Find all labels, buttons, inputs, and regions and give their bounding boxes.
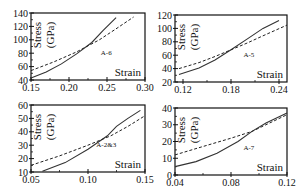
x-tick-label: 0.12	[174, 84, 192, 95]
x-tick-label: 0.30	[136, 82, 154, 93]
y-axis-label: Stress	[31, 22, 43, 48]
y-axis-label: Stress	[31, 114, 43, 140]
y-tick-label: 100	[157, 23, 172, 34]
x-tick-label: 0.08	[222, 177, 240, 188]
stress-strain-figure: 4060801001201400.150.200.250.30Stress(GP…	[0, 0, 301, 193]
y-tick-label: 20	[162, 77, 172, 88]
y-axis-unit: (GPa)	[44, 22, 57, 49]
chart-A-6: 4060801001201400.150.200.250.30Stress(GP…	[13, 8, 154, 94]
x-tick-label: 0.15	[22, 82, 40, 93]
x-tick-label: 0.12	[278, 177, 296, 188]
sample-annotation: A-2&3	[96, 141, 116, 149]
y-tick-label: 20	[18, 153, 28, 164]
chart-A-7: 0102030400.040.080.12Stress(GPa)StrainA-…	[162, 103, 296, 189]
y-tick-label: 80	[18, 48, 28, 59]
x-tick-label: 0.18	[222, 84, 240, 95]
y-tick-label: 40	[18, 126, 28, 137]
x-tick-label: 0.04	[166, 177, 184, 188]
x-axis-label: Strain	[115, 158, 142, 170]
x-axis-label: Strain	[115, 66, 142, 78]
y-tick-label: 30	[162, 119, 172, 130]
x-tick-label: 0.20	[60, 82, 78, 93]
x-tick-label: 0.10	[79, 174, 97, 185]
x-tick-label: 0.05	[22, 174, 40, 185]
y-tick-label: 30	[18, 140, 28, 151]
x-tick-label: 0.24	[270, 84, 288, 95]
y-tick-label: 10	[162, 153, 172, 164]
y-axis-label: Stress	[175, 117, 187, 143]
chart-A-2-3: 1020304050600.050.100.15Stress(GPa)Strai…	[18, 100, 154, 186]
y-tick-label: 140	[13, 8, 28, 19]
sample-annotation: A-7	[243, 144, 254, 152]
x-tick-label: 0.15	[136, 174, 154, 185]
y-tick-label: 80	[162, 36, 172, 47]
sample-annotation: A-6	[101, 49, 112, 57]
y-axis-unit: (GPa)	[44, 114, 57, 141]
y-tick-label: 60	[18, 100, 28, 111]
y-tick-label: 120	[13, 21, 28, 32]
y-tick-label: 20	[162, 136, 172, 147]
chart-A-5: 204060801001200.120.180.24Stress(GPa)Str…	[157, 10, 288, 96]
y-tick-label: 60	[162, 50, 172, 61]
sample-annotation: A-5	[243, 51, 254, 59]
y-tick-label: 100	[13, 34, 28, 45]
x-tick-label: 0.25	[98, 82, 116, 93]
y-tick-label: 60	[18, 61, 28, 72]
y-axis-label: Stress	[175, 24, 187, 50]
y-axis-unit: (GPa)	[188, 117, 201, 144]
y-axis-unit: (GPa)	[188, 24, 201, 51]
y-tick-label: 120	[157, 10, 172, 21]
y-tick-label: 40	[162, 103, 172, 114]
x-axis-label: Strain	[257, 161, 284, 173]
y-tick-label: 40	[162, 63, 172, 74]
x-axis-label: Strain	[257, 68, 284, 80]
y-tick-label: 50	[18, 113, 28, 124]
